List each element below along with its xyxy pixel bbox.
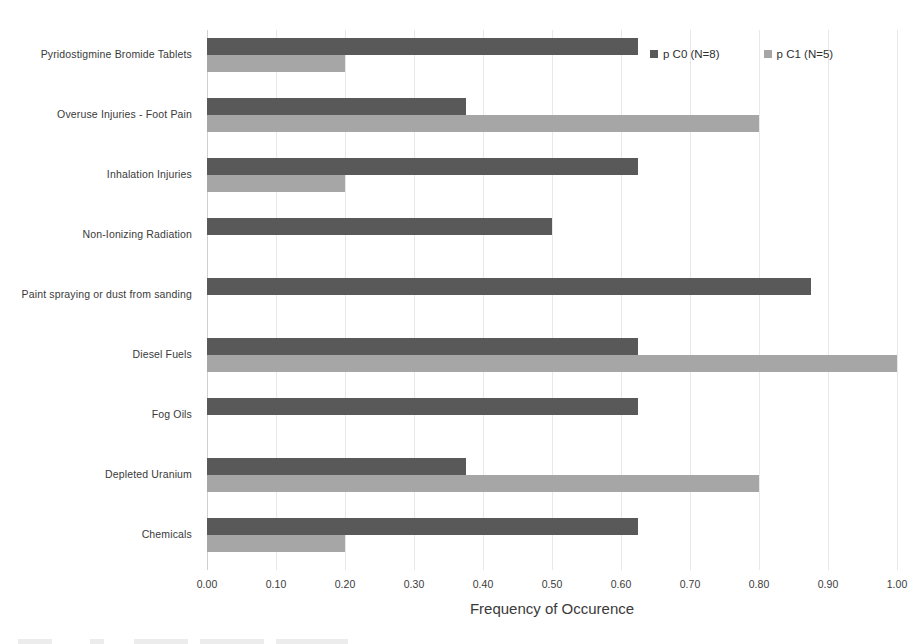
chart-legend: p C0 (N=8)p C1 (N=5) — [650, 48, 833, 60]
bar — [207, 218, 552, 235]
x-tick-label: 0.90 — [818, 578, 838, 590]
legend-item[interactable]: p C1 (N=5) — [764, 48, 834, 60]
bar — [207, 355, 897, 372]
x-tick-label: 0.70 — [680, 578, 700, 590]
x-tick-label: 0.00 — [197, 578, 217, 590]
bar-group — [207, 90, 897, 150]
category-label: Diesel Fuels — [0, 348, 192, 360]
gridline — [897, 30, 898, 570]
category-label: Pyridostigmine Bromide Tablets — [0, 48, 192, 60]
legend-label: p C0 (N=8) — [663, 48, 720, 60]
legend-swatch-icon — [650, 50, 658, 58]
bar — [207, 535, 345, 552]
bar — [207, 158, 638, 175]
category-label: Fog Oils — [0, 408, 192, 420]
x-tick-label: 1.00 — [887, 578, 907, 590]
x-tick-label: 0.40 — [473, 578, 493, 590]
bar-group — [207, 210, 897, 270]
scan-edge-artifact — [18, 639, 348, 644]
legend-swatch-icon — [764, 50, 772, 58]
bar — [207, 175, 345, 192]
bar — [207, 278, 811, 295]
bar-group — [207, 330, 897, 390]
bar — [207, 398, 638, 415]
bar — [207, 38, 638, 55]
bar-chart-figure: Pyridostigmine Bromide TabletsOveruse In… — [0, 0, 922, 644]
x-tick-label: 0.60 — [611, 578, 631, 590]
bar-group — [207, 150, 897, 210]
x-tick-label: 0.10 — [266, 578, 286, 590]
x-axis-tick-labels: 0.000.100.200.300.400.500.600.700.800.90… — [207, 578, 897, 594]
legend-label: p C1 (N=5) — [777, 48, 834, 60]
bar — [207, 55, 345, 72]
bar — [207, 475, 759, 492]
bar — [207, 338, 638, 355]
bar — [207, 458, 466, 475]
bar — [207, 115, 759, 132]
category-label: Overuse Injuries - Foot Pain — [0, 108, 192, 120]
category-axis-labels: Pyridostigmine Bromide TabletsOveruse In… — [0, 30, 200, 570]
x-tick-label: 0.50 — [542, 578, 562, 590]
category-label: Inhalation Injuries — [0, 168, 192, 180]
category-label: Chemicals — [0, 528, 192, 540]
category-label: Depleted Uranium — [0, 468, 192, 480]
bar-rows — [207, 30, 897, 570]
bar — [207, 98, 466, 115]
x-tick-label: 0.20 — [335, 578, 355, 590]
bar-group — [207, 30, 897, 90]
category-label: Non-Ionizing Radiation — [0, 228, 192, 240]
category-label: Paint spraying or dust from sanding — [0, 288, 192, 300]
bar-group — [207, 270, 897, 330]
legend-item[interactable]: p C0 (N=8) — [650, 48, 720, 60]
plot-area — [207, 30, 897, 570]
bar — [207, 518, 638, 535]
bar-group — [207, 450, 897, 510]
bar-group — [207, 510, 897, 570]
x-tick-label: 0.30 — [404, 578, 424, 590]
x-tick-label: 0.80 — [749, 578, 769, 590]
bar-group — [207, 390, 897, 450]
x-axis-title: Frequency of Occurence — [207, 600, 897, 617]
